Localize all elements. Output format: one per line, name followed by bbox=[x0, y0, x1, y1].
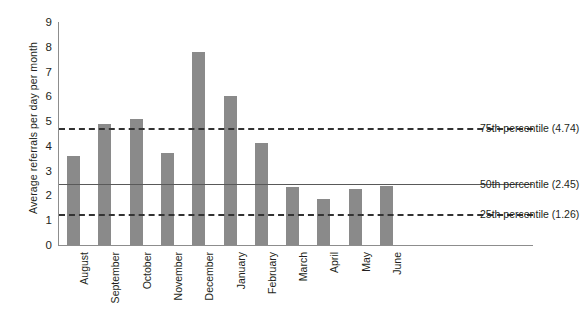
reference-line-75th-percentile bbox=[59, 128, 533, 130]
y-axis-tick-1: 1 bbox=[36, 214, 52, 226]
y-axis-tick-5: 5 bbox=[36, 115, 52, 127]
x-axis-tick-september: September bbox=[109, 252, 121, 332]
x-axis-tick-august: August bbox=[78, 252, 90, 332]
x-axis-tick-october: October bbox=[141, 252, 153, 332]
reference-label-25th-percentile: 25th percentile (1.26) bbox=[480, 208, 579, 220]
bar-december bbox=[192, 52, 205, 245]
bar-may bbox=[349, 189, 362, 245]
bar-august bbox=[67, 156, 80, 245]
reference-label-50th-percentile: 50th percentile (2.45) bbox=[480, 178, 579, 190]
bar-april bbox=[317, 199, 330, 245]
x-axis-tick-december: December bbox=[203, 252, 215, 332]
y-axis-tick-6: 6 bbox=[36, 90, 52, 102]
x-axis-tick-june: June bbox=[391, 252, 403, 332]
x-axis-tick-november: November bbox=[172, 252, 184, 332]
y-axis-tick-8: 8 bbox=[36, 41, 52, 53]
y-axis-tick-4: 4 bbox=[36, 140, 52, 152]
y-axis-tick-0: 0 bbox=[36, 239, 52, 251]
y-axis-tick-3: 3 bbox=[36, 165, 52, 177]
bar-january bbox=[224, 96, 237, 245]
reference-line-25th-percentile bbox=[59, 214, 533, 216]
y-axis-tick-9: 9 bbox=[36, 16, 52, 28]
bar-march bbox=[286, 187, 299, 245]
x-axis-tick-february: February bbox=[266, 252, 278, 332]
x-axis-tick-may: May bbox=[360, 252, 372, 332]
bar-october bbox=[130, 119, 143, 245]
x-axis-tick-march: March bbox=[297, 252, 309, 332]
reference-label-75th-percentile: 75th percentile (4.74) bbox=[480, 122, 579, 134]
bar-november bbox=[161, 153, 174, 245]
reference-line-50th-percentile bbox=[59, 184, 533, 185]
bar-chart: Average referrals per day per month 0123… bbox=[0, 0, 585, 332]
plot-area bbox=[59, 22, 533, 245]
bar-february bbox=[255, 143, 268, 245]
y-axis-tick-7: 7 bbox=[36, 66, 52, 78]
y-axis-tick-2: 2 bbox=[36, 189, 52, 201]
x-axis-tick-april: April bbox=[328, 252, 340, 332]
x-axis-tick-january: January bbox=[235, 252, 247, 332]
